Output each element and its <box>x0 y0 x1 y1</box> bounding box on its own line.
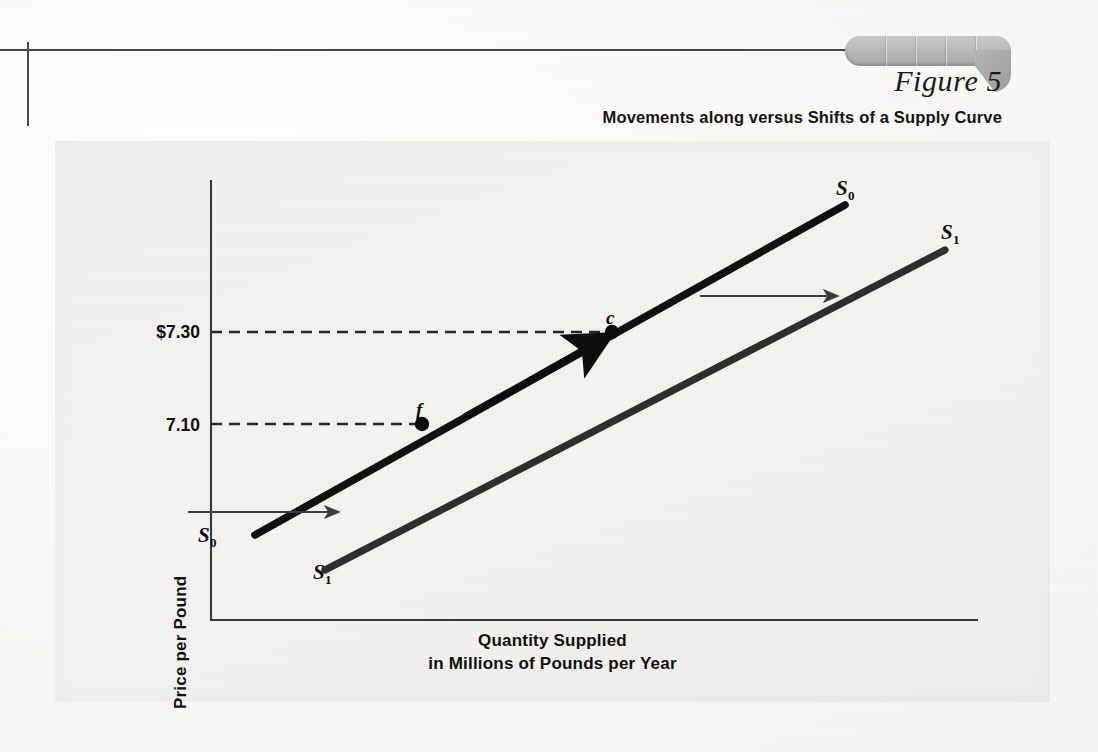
y-tick-label-710: 7.10 <box>90 415 200 436</box>
curve-label-s1-letter: S <box>941 220 953 244</box>
point-label-f: f <box>416 399 422 421</box>
y-tick-label-730: $7.30 <box>90 322 200 343</box>
curve-label-s0-letter: S <box>836 176 848 200</box>
x-axis-title-line2: in Millions of Pounds per Year <box>55 653 1050 676</box>
supply-curve-plot <box>55 141 1050 702</box>
curve-label-s1-sub: 1 <box>953 232 960 247</box>
curve-label-s1-letter: S <box>313 560 325 584</box>
header-tick-mark <box>27 42 29 126</box>
axis-lines <box>210 180 978 621</box>
curve-label-s0-letter: S <box>198 523 210 547</box>
curve-label-s0-top: S0 <box>836 176 855 204</box>
figure-panel: $7.30 7.10 Price per Pound Quantity Supp… <box>55 141 1050 702</box>
header-rule <box>0 49 900 51</box>
curve-label-s0-sub: 0 <box>848 188 855 203</box>
curve-label-s1-top: S1 <box>941 220 960 248</box>
x-axis-title-line1: Quantity Supplied <box>55 630 1050 653</box>
y-axis-title-wrap: Price per Pound <box>173 441 195 641</box>
figure-label: Figure 5 <box>894 64 1002 98</box>
point-label-c: c <box>606 307 614 329</box>
y-axis-title: Price per Pound <box>171 509 191 709</box>
movement-along-arrow <box>465 337 607 417</box>
dashed-leader-lines <box>211 332 612 424</box>
figure-subtitle: Movements along versus Shifts of a Suppl… <box>603 108 1002 127</box>
curve-label-s0-bottom: S0 <box>198 523 217 551</box>
curve-label-s1-bottom: S1 <box>313 560 332 588</box>
curve-label-s0-sub: 0 <box>210 535 217 550</box>
x-axis-title: Quantity Supplied in Millions of Pounds … <box>55 630 1050 676</box>
curve-label-s1-sub: 1 <box>325 572 332 587</box>
